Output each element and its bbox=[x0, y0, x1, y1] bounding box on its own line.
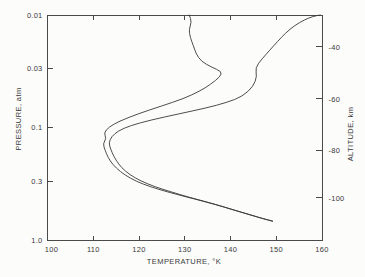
plot-border bbox=[48, 15, 323, 240]
x-tick-label: 140 bbox=[224, 245, 237, 254]
pressure-tick-label: 0.1 bbox=[31, 123, 42, 132]
altitude-tick-label: -100 bbox=[329, 194, 345, 203]
altitude-tick-label: -80 bbox=[329, 146, 341, 155]
x-tick-label: 120 bbox=[132, 245, 145, 254]
right-axis-title: ALTITUDE, km bbox=[346, 107, 355, 162]
curve-warm-stratosphere-profile bbox=[109, 15, 320, 221]
altitude-tick-label: -60 bbox=[329, 95, 341, 104]
x-tick-label: 110 bbox=[87, 245, 100, 254]
curve-cold-stratosphere-profile bbox=[104, 15, 273, 221]
x-tick-label: 100 bbox=[45, 245, 58, 254]
left-axis-title: PRESSURE, atm bbox=[14, 87, 23, 150]
pressure-tick-label: 0.01 bbox=[27, 11, 43, 20]
pressure-tick-label: 1.0 bbox=[31, 236, 42, 245]
pressure-tick-label: 0.3 bbox=[31, 177, 42, 186]
altitude-tick-label: -40 bbox=[329, 43, 341, 52]
x-axis-title: TEMPERATURE, °K bbox=[147, 257, 221, 266]
x-tick-label: 150 bbox=[270, 245, 283, 254]
x-tick-label: 130 bbox=[178, 245, 191, 254]
x-tick-label: 160 bbox=[315, 245, 328, 254]
temperature-profile-chart: 1001101201301401501600.010.030.10.31.0-4… bbox=[0, 0, 365, 277]
chart-canvas: 1001101201301401501600.010.030.10.31.0-4… bbox=[0, 0, 365, 277]
pressure-tick-label: 0.03 bbox=[27, 64, 43, 73]
